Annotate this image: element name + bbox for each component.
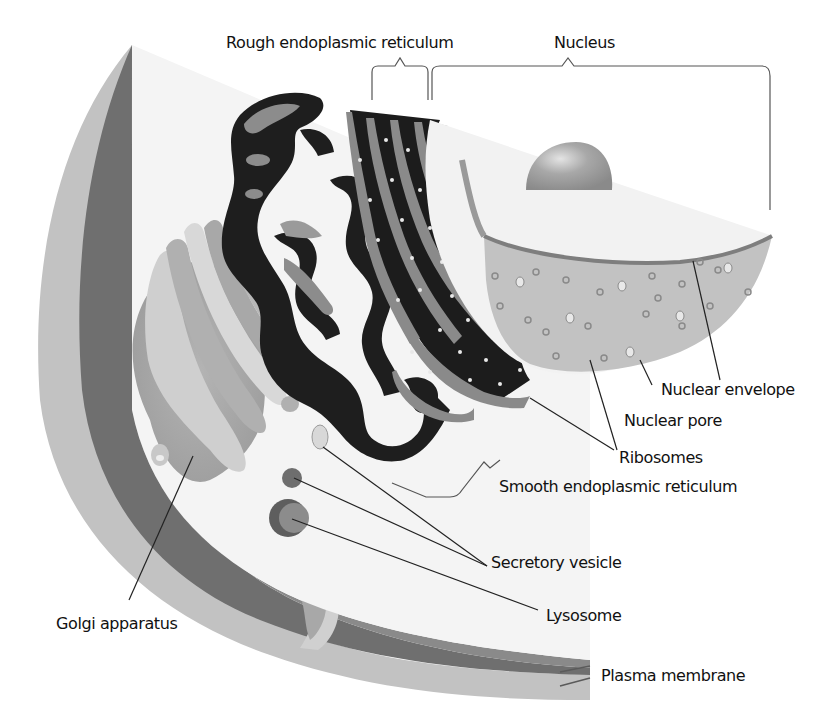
label-ribosomes: Ribosomes <box>619 448 703 467</box>
label-nucleus: Nucleus <box>554 33 615 52</box>
label-plasma-membrane: Plasma membrane <box>601 666 745 685</box>
label-secretory-vesicle: Secretory vesicle <box>491 553 621 572</box>
label-nuclear-envelope: Nuclear envelope <box>661 380 795 399</box>
secretory-vesicle-1 <box>312 425 328 449</box>
label-smooth-er: Smooth endoplasmic reticulum <box>499 477 737 496</box>
label-lysosome: Lysosome <box>546 606 621 625</box>
label-nuclear-pore: Nuclear pore <box>624 411 722 430</box>
cell-diagram: Rough endoplasmic reticulum Nucleus Nucl… <box>0 0 833 724</box>
secretory-vesicle-2 <box>282 468 302 488</box>
label-rough-er: Rough endoplasmic reticulum <box>226 33 453 52</box>
label-golgi-apparatus: Golgi apparatus <box>56 614 177 633</box>
